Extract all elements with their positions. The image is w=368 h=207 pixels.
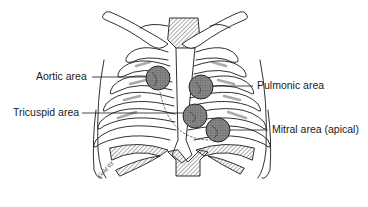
ribcage-illustration: Gold 93: [0, 0, 368, 207]
label-mitral-area: Mitral area (apical): [272, 123, 359, 135]
mitral-area-marker: [206, 118, 230, 142]
artist-signature: Gold 93: [96, 161, 114, 179]
label-tricuspid-area: Tricuspid area: [13, 106, 79, 118]
pulmonic-area-marker: [189, 75, 213, 99]
label-aortic-area: Aortic area: [36, 70, 87, 82]
chest-diagram: Gold 93 Aortic area Pulmonic area Tricus…: [0, 0, 368, 207]
aortic-area-marker: [146, 66, 170, 90]
left-clavicle: [102, 12, 168, 49]
label-pulmonic-area: Pulmonic area: [257, 79, 324, 91]
auscultation-areas: [146, 66, 230, 142]
